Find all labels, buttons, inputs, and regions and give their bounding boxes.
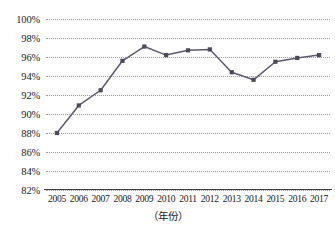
line-chart-figure: 82%84%86%88%90%92%94%96%98%100% 20052006… [0,0,335,229]
data-point-marker [99,88,103,92]
series-line [57,47,319,133]
data-point-marker [295,56,299,60]
data-point-marker [230,70,234,74]
data-series-layer [0,0,335,229]
series-markers [55,44,321,135]
data-point-marker [55,131,59,135]
data-point-marker [77,103,81,107]
data-point-marker [251,78,255,82]
data-point-marker [186,48,190,52]
data-point-marker [208,47,212,51]
data-point-marker [142,44,146,48]
data-point-marker [317,53,321,57]
data-point-marker [164,53,168,57]
data-point-marker [120,59,124,63]
data-point-marker [273,60,277,64]
